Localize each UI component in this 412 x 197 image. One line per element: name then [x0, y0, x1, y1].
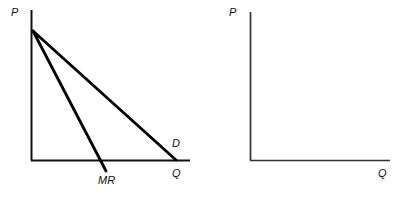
- marginal-revenue-curve-line: [33, 31, 106, 171]
- marginal-revenue-curve-label: MR: [98, 175, 115, 186]
- chart-panel-right: P Q: [206, 0, 412, 197]
- right-x-axis-label: Q: [378, 168, 387, 179]
- economics-diagram-figure: P Q D MR P Q: [0, 0, 412, 197]
- chart-panel-left: P Q D MR: [0, 0, 206, 197]
- left-y-axis-label: P: [11, 7, 18, 18]
- demand-curve-line: [33, 31, 176, 160]
- right-y-axis-label: P: [229, 7, 236, 18]
- left-x-axis-label: Q: [172, 168, 181, 179]
- demand-curve-label: D: [172, 138, 180, 149]
